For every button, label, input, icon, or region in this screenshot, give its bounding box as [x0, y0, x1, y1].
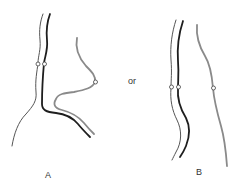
panel-a-label: A — [45, 171, 51, 180]
panel-b — [170, 20, 228, 166]
separator-label: or — [128, 77, 136, 86]
panel-b-thin-node — [170, 85, 174, 89]
panel-a-gray-node — [94, 80, 98, 84]
panel-a — [12, 14, 98, 146]
panel-a-thin-line — [12, 14, 43, 146]
panel-b-gray-line — [197, 25, 227, 166]
panel-b-thick-node — [177, 85, 181, 89]
panel-a-thick-line — [42, 14, 90, 137]
panel-b-gray-node — [212, 86, 216, 90]
panel-a-thin-node — [36, 62, 40, 66]
panel-a-thick-node — [43, 62, 47, 66]
diagram-canvas — [0, 0, 241, 182]
panel-b-label: B — [196, 168, 202, 177]
